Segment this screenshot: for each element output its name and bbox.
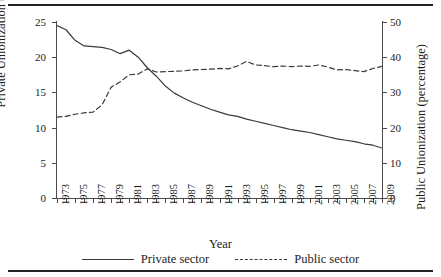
x-tick <box>129 199 130 203</box>
y-tick-right <box>383 92 387 93</box>
y-tick-label-left: 0 <box>20 193 46 204</box>
y-tick-label-left: 10 <box>20 123 46 134</box>
x-tick <box>75 199 76 203</box>
x-tick <box>57 199 58 203</box>
y-axis-left-title: Private Unionization (percentage) <box>0 0 9 118</box>
x-tick <box>147 199 148 203</box>
legend-item-public: Public sector <box>235 252 359 267</box>
series-lines <box>57 22 382 198</box>
x-tick <box>93 199 94 203</box>
x-tick <box>310 199 311 203</box>
x-tick <box>364 199 365 203</box>
x-tick <box>183 199 184 203</box>
y-tick-label-left: 20 <box>20 52 46 63</box>
y-tick-right <box>383 163 387 164</box>
y-axis-right-title: Public Unionization (percentage) <box>414 10 429 210</box>
x-axis-title: Year <box>0 237 441 252</box>
y-tick-right <box>383 128 387 129</box>
legend-label-public: Public sector <box>294 252 359 267</box>
y-tick-label-right: 20 <box>390 123 416 134</box>
x-tick <box>201 199 202 203</box>
x-tick <box>274 199 275 203</box>
legend-swatch-dashed-icon <box>235 259 287 260</box>
series-line-private-sector <box>57 26 382 148</box>
y-tick-label-right: 10 <box>390 158 416 169</box>
y-tick-right <box>383 57 387 58</box>
top-divider <box>8 4 433 6</box>
legend-label-private: Private sector <box>141 252 209 267</box>
x-tick <box>111 199 112 203</box>
y-tick-left <box>52 128 56 129</box>
y-tick-label-left: 15 <box>20 87 46 98</box>
bottom-divider <box>8 270 433 272</box>
x-tick <box>292 199 293 203</box>
y-axis-right <box>382 21 383 199</box>
x-tick <box>165 199 166 203</box>
y-tick-label-right: 50 <box>390 17 416 28</box>
y-tick-label-left: 5 <box>20 158 46 169</box>
figure: 0510152025 01020304050 19731975197719791… <box>0 0 441 277</box>
y-tick-right <box>383 22 387 23</box>
x-tick <box>256 199 257 203</box>
x-tick <box>220 199 221 203</box>
legend-swatch-solid-icon <box>82 259 134 260</box>
y-tick-left <box>52 22 56 23</box>
plot-area <box>57 22 382 198</box>
x-tick <box>346 199 347 203</box>
y-tick-left <box>52 163 56 164</box>
y-tick-left <box>52 57 56 58</box>
y-tick-left <box>52 92 56 93</box>
x-tick <box>382 199 383 203</box>
y-tick-label-right: 40 <box>390 52 416 63</box>
y-tick-label-left: 25 <box>20 17 46 28</box>
y-tick-left <box>52 198 56 199</box>
legend: Private sector Public sector <box>0 252 441 267</box>
legend-item-private: Private sector <box>82 252 209 267</box>
x-tick-label: 2009 <box>386 184 397 205</box>
x-tick <box>238 199 239 203</box>
y-tick-label-right: 30 <box>390 87 416 98</box>
x-tick <box>328 199 329 203</box>
series-line-public-sector <box>57 61 382 117</box>
